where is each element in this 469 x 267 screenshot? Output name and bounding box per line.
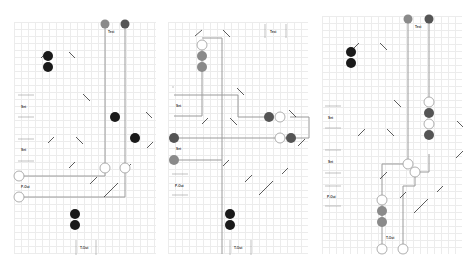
label-t-out: T-Out (386, 236, 395, 240)
node-black (130, 133, 140, 143)
node-black (43, 62, 53, 72)
label-test: Test (415, 25, 422, 29)
node-empty (14, 192, 24, 202)
game-board-2[interactable]: Test Set Set P-Out T-Out (168, 22, 308, 254)
label-p-out: P-Out (175, 184, 185, 188)
label-set: Set (176, 104, 182, 108)
label-p-out: P-Out (21, 185, 31, 189)
label-t-out: T-Out (234, 246, 243, 250)
node-empty (100, 163, 110, 173)
track-path (19, 164, 105, 176)
node-black (70, 220, 80, 230)
node-empty (14, 171, 24, 181)
label-set: Set (328, 116, 334, 120)
label-test: Test (108, 30, 115, 34)
board-3-canvas: Test Set Set P-Out T-Out (322, 16, 462, 254)
node-black (70, 209, 80, 219)
label-t-out: T-Out (80, 246, 89, 250)
label-set: Set (176, 147, 182, 151)
game-board-3[interactable]: Test Set Set P-Out T-Out (322, 16, 462, 254)
label-set: Set (21, 105, 27, 109)
game-board-1[interactable]: Test Set Set P-Out T-Out (14, 22, 156, 254)
node-light (101, 20, 110, 29)
node-dark (121, 20, 130, 29)
node-empty (120, 163, 130, 173)
label-p-out: P-Out (327, 195, 337, 199)
board-2-canvas: Test Set Set P-Out T-Out (168, 22, 308, 254)
label-set: Set (328, 160, 334, 164)
board-1-canvas: Test Set Set P-Out T-Out (14, 22, 156, 254)
label-test: Test (270, 30, 277, 34)
node-black (110, 112, 120, 122)
node-black (43, 51, 53, 61)
label-set: Set (21, 148, 27, 152)
